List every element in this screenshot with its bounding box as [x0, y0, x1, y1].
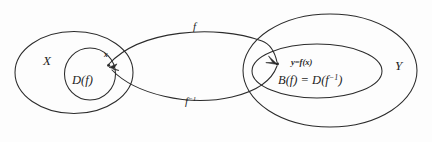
set-df-label: D(f)	[71, 73, 93, 87]
domain-point-label: x	[103, 50, 108, 59]
set-bf-label-main: B(f) = D(f	[278, 73, 330, 87]
set-bf-label-superscript: −1	[329, 73, 338, 82]
codomain-point-dot	[276, 62, 279, 65]
set-x-label: X	[42, 53, 52, 68]
forward-map-label: f	[193, 20, 198, 32]
set-codomain-bf-ellipse	[252, 44, 382, 98]
set-bf-label: B(f) = D(f−1)	[278, 73, 342, 87]
set-bf-label-tail: )	[337, 73, 342, 87]
diagram-canvas: X D(f) x Y y=f(x) B(f) = D(f−1) f f−1	[0, 0, 432, 142]
inverse-map-arrowhead	[109, 64, 119, 71]
inverse-map-label: f−1	[185, 95, 196, 107]
set-mapping-diagram: X D(f) x Y y=f(x) B(f) = D(f−1) f f−1	[0, 0, 432, 142]
domain-point-dot	[107, 64, 110, 67]
forward-map-curve	[109, 32, 277, 64]
inverse-map-label-superscript: −1	[188, 95, 196, 103]
set-y-label: Y	[395, 58, 404, 73]
set-y-outer-ellipse	[243, 14, 417, 127]
codomain-point-label: y=f(x)	[290, 57, 313, 67]
